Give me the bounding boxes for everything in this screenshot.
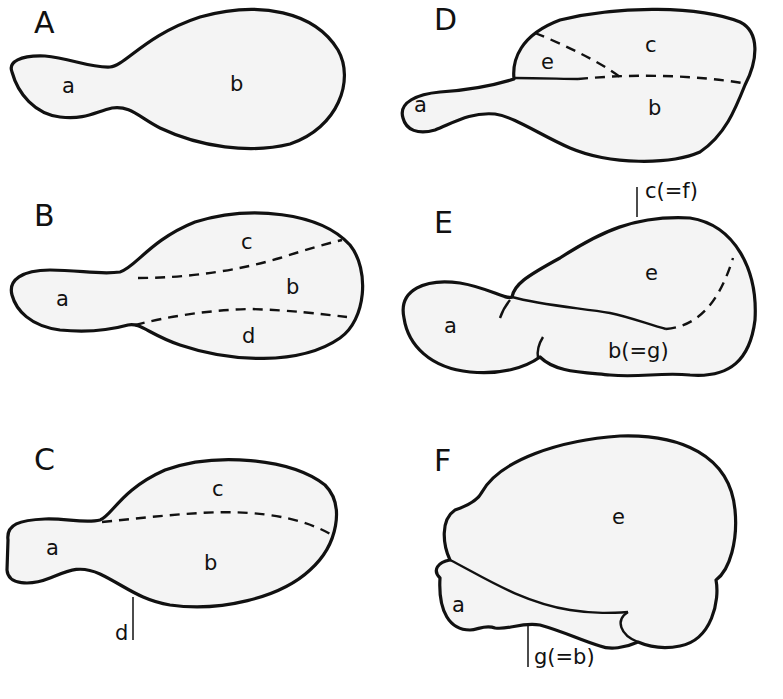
panel-label-f: F [434, 443, 451, 478]
region-a: a [62, 74, 75, 98]
region-gb: g(=b) [534, 645, 595, 669]
region-cf: c(=f) [645, 179, 698, 203]
panel-b: B a c b d [11, 198, 362, 358]
region-e: e [541, 50, 554, 74]
region-b: b [230, 72, 243, 96]
panel-d: D a e c b [402, 2, 755, 161]
region-a: a [452, 593, 465, 617]
panel-c: C a c b d [7, 442, 336, 645]
region-d: d [242, 324, 255, 348]
panel-label-d: D [434, 2, 457, 37]
region-b: b [648, 96, 661, 120]
region-e: e [612, 505, 625, 529]
panel-f-outline [436, 436, 735, 648]
region-a: a [56, 287, 69, 311]
panel-label-e: E [434, 205, 453, 240]
panel-f: F a e g(=b) [434, 436, 736, 669]
region-c: c [645, 33, 657, 57]
region-d: d [115, 621, 128, 645]
panel-c-outline [7, 460, 336, 607]
panel-e-outline [403, 218, 755, 376]
panel-label-a: A [34, 5, 55, 40]
panel-b-outline [11, 213, 362, 358]
region-a: a [414, 93, 427, 117]
panel-label-b: B [34, 198, 55, 233]
region-a: a [46, 536, 59, 560]
region-e: e [645, 261, 658, 285]
region-a: a [444, 314, 457, 338]
region-b: b [286, 275, 299, 299]
region-bg: b(=g) [608, 339, 669, 363]
brain-development-diagram: A a b B a c b d C a c b d D a e c b [0, 0, 783, 699]
panel-label-c: C [34, 442, 55, 477]
region-c: c [241, 230, 253, 254]
panel-e: E c(=f) a e b(=g) [403, 179, 755, 376]
boundary-e-b-solid [515, 78, 578, 79]
region-b: b [204, 551, 217, 575]
region-c: c [212, 477, 224, 501]
panel-a: A a b [11, 5, 344, 149]
